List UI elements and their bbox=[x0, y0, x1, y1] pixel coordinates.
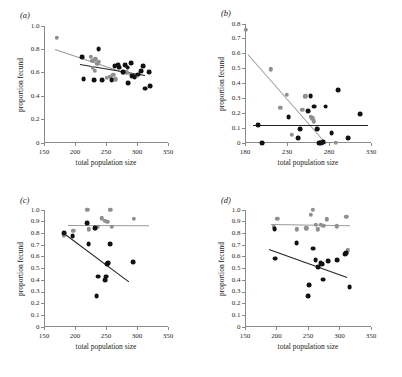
y-axis-line bbox=[245, 210, 246, 327]
data-point-grey bbox=[244, 28, 248, 32]
data-point-black bbox=[298, 126, 303, 131]
data-point-black bbox=[344, 250, 349, 255]
data-point-black bbox=[308, 94, 313, 99]
x-axis-title: total population size bbox=[245, 158, 371, 168]
data-point-black bbox=[336, 88, 341, 93]
y-axis-title: proportion fecund bbox=[217, 57, 227, 111]
x-tick-mark bbox=[106, 143, 107, 146]
x-tick-mark bbox=[371, 143, 372, 146]
y-tick-label: 0.2 bbox=[31, 114, 40, 125]
y-axis-title: proportion fecund bbox=[217, 242, 227, 296]
x-tick-label: 200 bbox=[70, 331, 81, 341]
data-point-grey bbox=[312, 119, 316, 123]
data-point-grey bbox=[93, 69, 97, 73]
y-tick-label: 0.6 bbox=[232, 48, 241, 59]
y-tick-mark bbox=[242, 210, 245, 211]
y-tick-mark bbox=[242, 98, 245, 99]
x-tick-label: 230 bbox=[282, 147, 293, 157]
y-tick-label: 0.8 bbox=[31, 44, 40, 55]
data-point-black bbox=[70, 234, 75, 239]
data-point-black bbox=[100, 78, 105, 83]
figure-four-panel-scatter: (a) 00.20.40.60.81.0150200250300350total… bbox=[0, 0, 402, 377]
data-point-black bbox=[259, 141, 264, 146]
y-tick-label: 1.0 bbox=[31, 205, 40, 216]
y-axis-title: proportion fecund bbox=[16, 58, 26, 112]
y-tick-mark bbox=[41, 256, 44, 257]
y-tick-label: 1.0 bbox=[31, 21, 40, 32]
panel-a: (a) 00.20.40.60.81.0150200250300350total… bbox=[0, 0, 201, 188]
x-tick-label: 280 bbox=[324, 147, 335, 157]
plot-area-b: 00.10.20.30.40.50.60.70.8180230280330tot… bbox=[245, 24, 371, 143]
y-axis-line bbox=[44, 210, 45, 327]
y-tick-label: 0.8 bbox=[31, 228, 40, 239]
y-tick-label: 0.2 bbox=[31, 298, 40, 309]
y-tick-mark bbox=[242, 38, 245, 39]
y-tick-label: 0.4 bbox=[31, 275, 40, 286]
y-tick-mark bbox=[242, 315, 245, 316]
y-tick-mark bbox=[242, 233, 245, 234]
x-tick-mark bbox=[339, 327, 340, 330]
data-point-grey bbox=[308, 212, 312, 216]
y-tick-mark bbox=[242, 68, 245, 69]
x-tick-label: 250 bbox=[101, 147, 112, 157]
x-tick-label: 330 bbox=[366, 147, 377, 157]
data-point-black bbox=[139, 69, 144, 74]
data-point-black bbox=[311, 246, 316, 251]
panel-d: (d) 00.10.20.30.40.50.60.70.80.91.015020… bbox=[201, 188, 402, 376]
y-tick-label: 0.7 bbox=[232, 240, 241, 251]
data-point-grey bbox=[311, 208, 315, 212]
axes: 00.20.40.60.81.0150200250300350 bbox=[44, 26, 168, 143]
data-point-grey bbox=[300, 107, 304, 111]
y-tick-mark bbox=[41, 280, 44, 281]
data-point-black bbox=[131, 260, 136, 265]
y-tick-mark bbox=[41, 96, 44, 97]
data-point-black bbox=[319, 262, 324, 267]
data-point-black bbox=[321, 277, 326, 282]
data-point-black bbox=[61, 230, 66, 235]
x-tick-label: 200 bbox=[70, 147, 81, 157]
data-point-black bbox=[321, 140, 326, 145]
data-point-black bbox=[94, 294, 99, 299]
x-tick-mark bbox=[106, 327, 107, 330]
y-tick-mark bbox=[41, 119, 44, 120]
data-point-black bbox=[108, 242, 113, 247]
panel-label-a: (a) bbox=[20, 11, 30, 20]
x-tick-label: 250 bbox=[101, 331, 112, 341]
data-point-black bbox=[273, 256, 278, 261]
x-tick-label: 300 bbox=[132, 147, 143, 157]
panel-label-d: (d) bbox=[221, 196, 231, 205]
x-tick-label: 180 bbox=[240, 147, 251, 157]
y-tick-mark bbox=[242, 24, 245, 25]
y-tick-label: 0.7 bbox=[232, 33, 241, 44]
data-point-black bbox=[85, 221, 90, 226]
x-tick-mark bbox=[137, 143, 138, 146]
x-tick-label: 250 bbox=[303, 331, 314, 341]
y-tick-label: 0.3 bbox=[232, 93, 241, 104]
data-point-black bbox=[81, 77, 86, 82]
y-tick-label: 0.6 bbox=[232, 251, 241, 262]
y-tick-mark bbox=[242, 280, 245, 281]
x-tick-mark bbox=[371, 327, 372, 330]
y-tick-label: 0.4 bbox=[232, 78, 241, 89]
plot-area-c: 00.10.20.30.40.50.60.70.80.91.0150200250… bbox=[44, 210, 168, 327]
x-tick-label: 350 bbox=[163, 147, 174, 157]
x-axis-title: total population size bbox=[245, 342, 371, 352]
data-point-black bbox=[335, 258, 340, 263]
y-tick-mark bbox=[41, 268, 44, 269]
x-tick-mark bbox=[168, 143, 169, 146]
data-point-grey bbox=[335, 224, 339, 228]
data-point-black bbox=[120, 70, 125, 75]
data-point-black bbox=[307, 283, 312, 288]
data-point-black bbox=[296, 135, 301, 140]
x-tick-mark bbox=[137, 327, 138, 330]
x-tick-label: 300 bbox=[132, 331, 143, 341]
y-tick-label: 0.1 bbox=[232, 310, 241, 321]
data-point-grey bbox=[321, 224, 325, 228]
panel-c: (c) 00.10.20.30.40.50.60.70.80.91.015020… bbox=[0, 188, 201, 376]
data-point-black bbox=[126, 80, 131, 85]
x-tick-mark bbox=[245, 327, 246, 330]
y-tick-label: 0.2 bbox=[232, 298, 241, 309]
data-point-black bbox=[346, 135, 351, 140]
y-tick-label: 0.5 bbox=[31, 263, 40, 274]
y-tick-label: 0.8 bbox=[232, 19, 241, 30]
